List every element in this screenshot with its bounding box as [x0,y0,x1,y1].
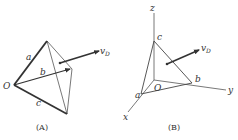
label-y: y [227,85,234,95]
tetrahedron-diagrams: O a b c vD (A) z c O a b y x vD (B) [0,0,238,140]
panel-a: O a b c vD (A) [3,41,110,132]
label-b: b [195,74,201,84]
x-axis [128,80,154,112]
edge-ab [141,83,192,94]
label-b: b [40,67,46,77]
label-a: a [135,90,140,100]
label-velocity: vD [100,46,110,57]
label-velocity: vD [201,43,211,54]
label-origin: O [154,83,162,93]
edge-bc [67,69,72,114]
velocity-vector [60,51,99,63]
label-c: c [157,32,162,42]
label-c: c [36,98,41,108]
caption-a: (A) [36,123,48,132]
caption-b: (B) [168,123,180,132]
label-x: x [123,112,128,122]
velocity-vector [167,50,199,64]
label-a: a [26,52,31,62]
vector-a [14,41,47,85]
panel-b: z c O a b y x vD (B) [123,3,234,132]
label-origin: O [3,81,11,91]
figure: O a b c vD (A) z c O a b y x vD (B) [0,0,238,140]
label-z: z [149,3,155,13]
edge-ca [141,41,154,94]
